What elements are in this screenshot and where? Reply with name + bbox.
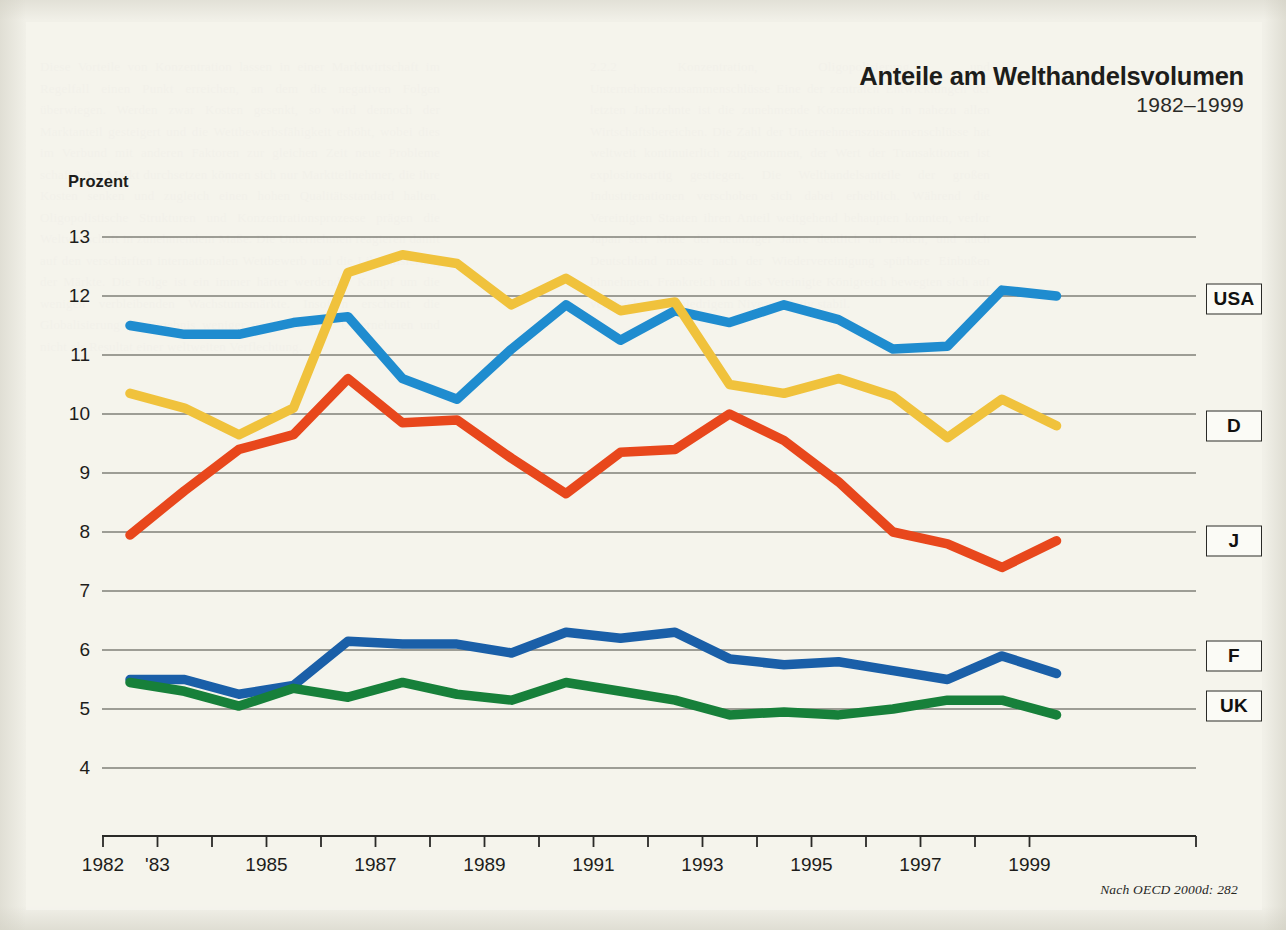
series-lines bbox=[130, 255, 1057, 715]
x-tick-label: '83 bbox=[145, 854, 170, 876]
y-tick-label: 13 bbox=[50, 226, 90, 248]
legend-label-uk[interactable]: UK bbox=[1206, 691, 1262, 722]
x-tick-label: 1993 bbox=[681, 854, 723, 876]
y-tick-label: 12 bbox=[50, 285, 90, 307]
y-tick-label: 6 bbox=[50, 639, 90, 661]
x-tick-label: 1997 bbox=[899, 854, 941, 876]
legend-label-usa[interactable]: USA bbox=[1206, 283, 1262, 314]
legend-label-j[interactable]: J bbox=[1206, 525, 1262, 556]
y-tick-label: 5 bbox=[50, 698, 90, 720]
y-tick-label: 11 bbox=[50, 344, 90, 366]
x-tick-label: 1999 bbox=[1008, 854, 1050, 876]
page-root: Diese Vorteile von Konzentration lassen … bbox=[0, 0, 1286, 930]
x-tick-label: 1987 bbox=[354, 854, 396, 876]
legend-label-d[interactable]: D bbox=[1206, 410, 1262, 441]
y-tick-label: 4 bbox=[50, 757, 90, 779]
legend-label-f[interactable]: F bbox=[1206, 640, 1262, 671]
y-tick-label: 7 bbox=[50, 580, 90, 602]
y-tick-label: 10 bbox=[50, 403, 90, 425]
x-tick-label: 1985 bbox=[245, 854, 287, 876]
chart-plot bbox=[0, 0, 1286, 930]
x-tick-label: 1995 bbox=[790, 854, 832, 876]
x-tick-label: 1989 bbox=[463, 854, 505, 876]
x-tick-label: 1991 bbox=[572, 854, 614, 876]
source-note: Nach OECD 2000d: 282 bbox=[1100, 882, 1238, 898]
y-tick-label: 8 bbox=[50, 521, 90, 543]
x-tick-label: 1982 bbox=[82, 854, 124, 876]
x-axis bbox=[102, 836, 1196, 847]
series-line-usa bbox=[130, 290, 1057, 399]
y-tick-label: 9 bbox=[50, 462, 90, 484]
